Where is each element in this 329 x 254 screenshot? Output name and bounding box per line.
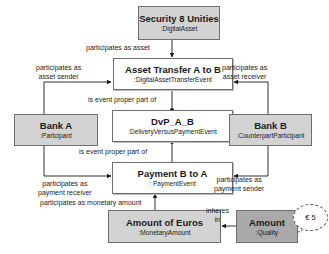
edge-label-line: asset receiver — [222, 73, 267, 82]
edge-label-participates-as-asset: participates as asset — [86, 44, 150, 53]
node-type: :DigitalAsset — [161, 24, 198, 33]
node-bank-b[interactable]: Bank B :CounterpartParticipant — [229, 114, 312, 146]
node-title: Bank A — [40, 120, 72, 131]
edge-label-line: inheres — [206, 207, 229, 216]
node-title: Bank B — [254, 120, 287, 131]
edge-label-line: participates as — [222, 64, 267, 73]
edge-label-proper-part-top: is event proper part of — [88, 96, 156, 105]
node-type: :MonetaryAmount — [138, 228, 190, 237]
edge-label-line: participates as — [38, 180, 92, 189]
edge-label-monetary-amount: participates as monetary amount — [40, 199, 142, 208]
node-type: :DeliveryVersusPaymentEvent — [128, 127, 217, 136]
node-title: Payment B to A — [138, 168, 208, 179]
node-title: Amount of Euros — [126, 217, 203, 228]
node-security-8-unities[interactable]: Security 8 Unities :DigitalAsset — [138, 6, 220, 40]
edge-label-payment-receiver: participates as payment receiver — [38, 180, 92, 197]
edge-label-line: participates as — [214, 176, 264, 185]
edge-label-asset-sender: participates as asset sender — [36, 64, 81, 81]
node-title: Security 8 Unities — [139, 13, 219, 24]
value-ellipse[interactable]: € 5 — [293, 204, 328, 231]
node-amount-quality[interactable]: Amount :Quality — [236, 210, 298, 243]
edge-label-line: payment receiver — [38, 189, 92, 198]
edge-label-line: in — [206, 216, 229, 225]
node-bank-a[interactable]: Bank A :Partcipant — [14, 114, 98, 146]
node-type: :Partcipant — [40, 131, 72, 140]
node-amount-of-euros[interactable]: Amount of Euros :MonetaryAmount — [108, 210, 221, 243]
edge-label-line: payment sender — [214, 185, 264, 194]
node-type: :DigitalAssetTransferEvent — [134, 75, 212, 84]
edge-label-proper-part-bottom: is event proper part of — [79, 148, 147, 157]
edge-label-asset-receiver: participates as asset receiver — [222, 64, 267, 81]
node-type: : PaymentEvent — [149, 179, 196, 188]
edge-label-line: asset sender — [36, 73, 81, 82]
node-type: :CounterpartParticipant — [237, 131, 305, 140]
value-label: € 5 — [305, 213, 315, 222]
edge-label-line: participates as — [36, 64, 81, 73]
node-asset-transfer[interactable]: Asset Transfer A to B :DigitalAssetTrans… — [113, 58, 233, 90]
edge-label-inheres-in: inheres in — [206, 207, 229, 224]
node-title: Asset Transfer A to B — [125, 64, 221, 75]
node-dvp[interactable]: DvP_A_B :DeliveryVersusPaymentEvent — [112, 110, 233, 142]
edge-label-payment-sender: participates as payment sender — [214, 176, 264, 193]
node-title: DvP_A_B — [151, 116, 194, 127]
node-title: Amount — [249, 217, 285, 228]
node-type: :Quality — [256, 228, 278, 237]
